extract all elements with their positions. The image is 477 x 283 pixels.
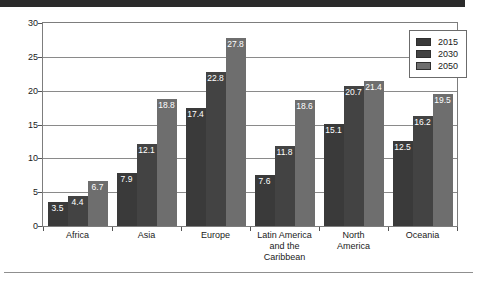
chart-legend: 201520302050 — [409, 30, 467, 78]
bar[interactable]: 18.6 — [295, 100, 315, 226]
x-tick-label: Africa — [43, 230, 112, 263]
bar-value-label: 16.2 — [414, 118, 431, 127]
bar-value-label: 7.6 — [259, 177, 271, 186]
x-axis-labels: AfricaAsiaEuropeLatin Americaand theCari… — [43, 230, 457, 263]
bar-value-label: 18.8 — [158, 101, 175, 110]
x-tick-label: Europe — [181, 230, 250, 263]
x-tick-label: Oceania — [388, 230, 457, 263]
legend-item[interactable]: 2050 — [416, 61, 458, 71]
y-tick-label: 15 — [4, 120, 38, 130]
x-tick-label: Latin Americaand theCaribbean — [250, 230, 319, 263]
bar-value-label: 12.1 — [138, 146, 155, 155]
bar[interactable]: 4.4 — [68, 196, 88, 226]
bar[interactable]: 15.1 — [324, 124, 344, 226]
bar[interactable]: 16.2 — [413, 116, 433, 226]
bar-value-label: 4.4 — [72, 198, 84, 207]
bar[interactable]: 7.6 — [255, 175, 275, 226]
bar-group: 3.54.46.7 — [43, 23, 112, 226]
bar-value-label: 6.7 — [92, 183, 104, 192]
bar-value-label: 21.4 — [365, 83, 382, 92]
y-axis-ticks: 051015202530 — [0, 22, 38, 227]
bar[interactable]: 12.5 — [393, 141, 413, 226]
bar[interactable]: 21.4 — [364, 81, 384, 226]
legend-label: 2050 — [438, 61, 458, 71]
bar[interactable]: 22.8 — [206, 72, 226, 226]
bar-value-label: 17.4 — [187, 110, 204, 119]
y-tick-label: 10 — [4, 153, 38, 163]
legend-swatch — [416, 62, 431, 70]
bar-value-label: 11.8 — [277, 148, 293, 157]
legend-swatch — [416, 50, 431, 58]
bar[interactable]: 19.5 — [433, 94, 453, 226]
legend-item[interactable]: 2015 — [416, 37, 458, 47]
bar[interactable]: 3.5 — [48, 202, 68, 226]
bar[interactable]: 11.8 — [275, 146, 295, 226]
x-tick-label: Asia — [112, 230, 181, 263]
y-tick-label: 25 — [4, 52, 38, 62]
bar-value-label: 3.5 — [52, 204, 64, 213]
bar-group: 7.611.818.6 — [250, 23, 319, 226]
y-tick-label: 30 — [4, 18, 38, 28]
bar[interactable]: 12.1 — [137, 144, 157, 226]
y-tick-label: 5 — [4, 187, 38, 197]
legend-swatch — [416, 38, 431, 46]
legend-label: 2030 — [438, 49, 458, 59]
legend-label: 2015 — [438, 37, 458, 47]
bar-group: 7.912.118.8 — [112, 23, 181, 226]
x-tick-mark — [457, 227, 458, 231]
bar-value-label: 12.5 — [394, 143, 411, 152]
top-banner — [0, 0, 465, 7]
bar[interactable]: 17.4 — [186, 108, 206, 226]
bar-value-label: 27.8 — [227, 40, 244, 49]
bar-groups: 3.54.46.77.912.118.817.422.827.87.611.81… — [43, 23, 457, 226]
bar-group: 17.422.827.8 — [181, 23, 250, 226]
bar-value-label: 15.1 — [325, 126, 342, 135]
bar[interactable]: 18.8 — [157, 99, 177, 226]
bar[interactable]: 20.7 — [344, 86, 364, 226]
y-tick-label: 0 — [4, 221, 38, 231]
bar-group: 15.120.721.4 — [319, 23, 388, 226]
bar-value-label: 20.7 — [345, 88, 362, 97]
x-tick-label: NorthAmerica — [319, 230, 388, 263]
y-tick-label: 20 — [4, 86, 38, 96]
bar[interactable]: 6.7 — [88, 181, 108, 226]
bar-value-label: 19.5 — [434, 96, 451, 105]
bar[interactable]: 27.8 — [226, 38, 246, 226]
footer-divider — [4, 272, 473, 273]
bar-value-label: 18.6 — [296, 102, 313, 111]
legend-item[interactable]: 2030 — [416, 49, 458, 59]
bar[interactable]: 7.9 — [117, 173, 137, 226]
bar-value-label: 22.8 — [207, 74, 224, 83]
bar-value-label: 7.9 — [121, 175, 133, 184]
bar-chart: 051015202530 Percentage 3.54.46.77.912.1… — [0, 10, 477, 272]
